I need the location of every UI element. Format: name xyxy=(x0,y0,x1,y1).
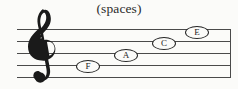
note-marker-c: C xyxy=(152,37,176,50)
note-marker-e: E xyxy=(185,26,209,39)
note-marker-f: F xyxy=(76,60,100,73)
note-label-f: F xyxy=(85,62,90,71)
note-label-a: A xyxy=(123,51,130,60)
music-staff-figure: (spaces) F A C E xyxy=(0,0,238,89)
note-label-c: C xyxy=(161,39,167,48)
note-label-e: E xyxy=(194,28,200,37)
staff-line-1 xyxy=(17,77,231,78)
note-marker-a: A xyxy=(114,49,138,62)
barline-right xyxy=(230,29,231,78)
staff-line-2 xyxy=(17,65,231,66)
figure-caption: (spaces) xyxy=(0,1,238,17)
staff-line-4 xyxy=(17,41,231,42)
